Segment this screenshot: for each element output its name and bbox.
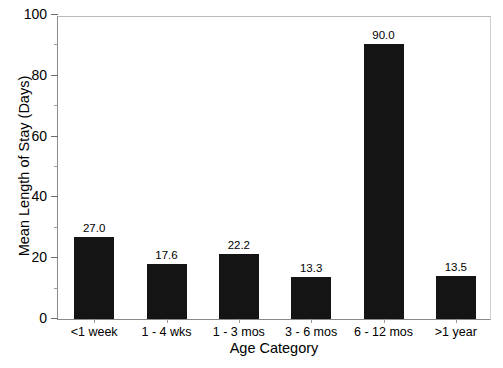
y-axis-tick-mark	[51, 257, 58, 258]
bar: 17.6	[147, 264, 187, 319]
bar-value-label: 90.0	[372, 29, 394, 41]
bar-value-label: 27.0	[83, 222, 105, 234]
x-axis-category-label: >1 year	[435, 325, 477, 339]
y-axis-tick-mark	[51, 14, 58, 15]
bar-value-label: 17.6	[155, 249, 177, 261]
x-axis-tick-mark	[239, 319, 240, 323]
x-axis-title: Age Category	[57, 340, 491, 356]
bar: 90.0	[364, 44, 404, 319]
y-axis-tick-mark	[51, 196, 58, 197]
x-axis-category-label: 3 - 6 mos	[285, 325, 337, 339]
x-axis-category-label: <1 week	[71, 325, 118, 339]
y-axis-tick-label: 20	[31, 249, 47, 265]
y-axis-tick-label: 60	[31, 128, 47, 144]
y-axis-tick-label: 0	[39, 310, 47, 326]
y-axis-title: Mean Length of Stay (Days)	[16, 56, 32, 276]
y-axis-tick-label: 40	[31, 188, 47, 204]
x-axis-category-label: 6 - 12 mos	[354, 325, 413, 339]
y-axis-tick-mark	[51, 318, 58, 319]
bar-value-label: 22.2	[228, 239, 250, 251]
y-axis-tick-mark	[51, 136, 58, 137]
plot-area: 02040608010027.0<1 week17.61 - 4 wks22.2…	[57, 16, 491, 320]
x-axis-tick-mark	[456, 319, 457, 323]
chart-title-remnant	[140, 0, 370, 2]
y-axis-tick-mark	[54, 105, 58, 106]
y-axis-tick-label: 100	[24, 6, 47, 22]
x-axis-category-label: 1 - 3 mos	[213, 325, 265, 339]
y-axis-tick-mark	[54, 166, 58, 167]
y-axis-tick-mark	[54, 227, 58, 228]
y-axis-tick-mark	[51, 75, 58, 76]
x-axis-category-label: 1 - 4 wks	[141, 325, 191, 339]
y-axis-tick-mark	[54, 288, 58, 289]
y-axis-tick-mark	[54, 44, 58, 45]
bar: 22.2	[219, 254, 259, 319]
x-axis-tick-mark	[311, 319, 312, 323]
x-axis-tick-mark	[384, 319, 385, 323]
y-axis-tick-label: 80	[31, 67, 47, 83]
x-axis-tick-mark	[94, 319, 95, 323]
bar-value-label: 13.5	[445, 261, 467, 273]
bar-value-label: 13.3	[300, 262, 322, 274]
bar: 13.3	[291, 277, 331, 319]
bar: 27.0	[74, 237, 114, 319]
bar: 13.5	[436, 276, 476, 319]
x-axis-tick-mark	[167, 319, 168, 323]
bar-chart-figure: Mean Length of Stay (Days) 0204060801002…	[0, 0, 503, 368]
